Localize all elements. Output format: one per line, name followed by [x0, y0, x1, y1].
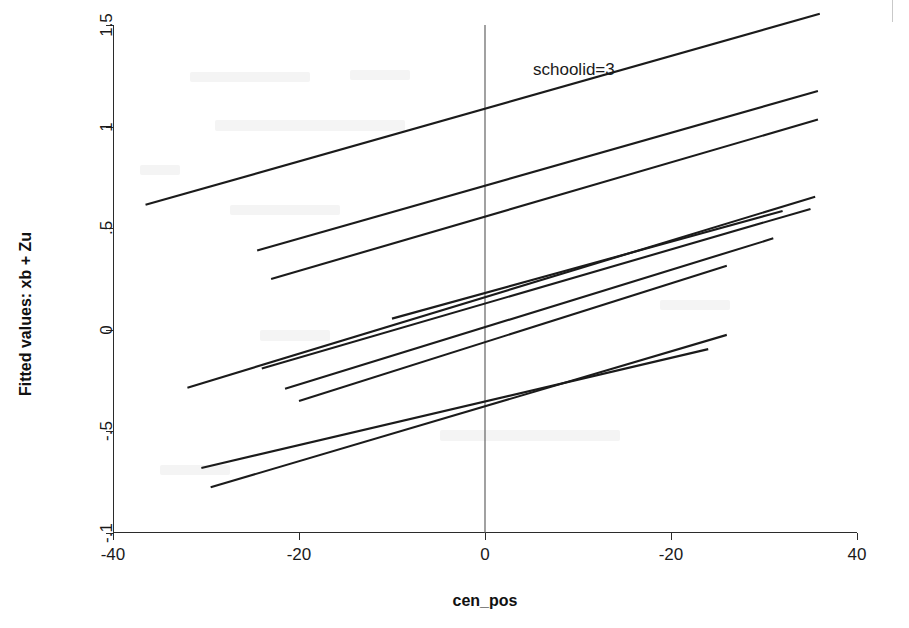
x-axis-tick: [299, 533, 300, 540]
fitted-line: [187, 197, 815, 388]
x-axis-tick: [857, 533, 858, 540]
plot-area: 1.51.50-.5-.1 -40-200-2040: [113, 25, 857, 533]
y-axis-title: Fitted values: xb + Zu: [17, 232, 35, 396]
fitted-line: [201, 349, 708, 468]
x-axis-tick-label: 40: [848, 545, 867, 565]
fitted-line: [285, 238, 773, 388]
fitted-line: [271, 119, 818, 279]
x-axis-tick-label: -40: [101, 545, 126, 565]
x-axis-tick-label: -20: [287, 545, 312, 565]
x-axis-tick: [113, 533, 114, 540]
fitted-line: [262, 209, 811, 369]
x-axis-tick-label: -20: [659, 545, 684, 565]
page-edge-artifact: [892, 0, 893, 22]
fitted-line: [257, 91, 818, 251]
x-axis-tick-label: 0: [480, 545, 489, 565]
chart-figure: Fitted values: xb + Zu cen_pos schoolid=…: [0, 0, 909, 628]
fitted-lines-group: [113, 25, 857, 533]
x-axis-title: cen_pos: [453, 592, 518, 610]
x-axis-tick: [671, 533, 672, 540]
fitted-line: [146, 14, 820, 205]
x-axis-tick: [485, 533, 486, 540]
